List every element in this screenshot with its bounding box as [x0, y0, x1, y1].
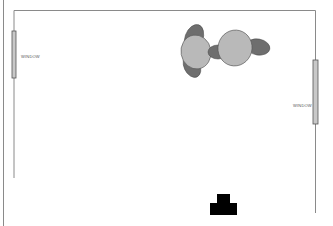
table-with-chairs-right: [208, 26, 271, 70]
top-wall: [14, 11, 316, 214]
black-t-shaped-object: [210, 194, 237, 215]
floor-plan: WINDOW WINDOW: [0, 0, 333, 226]
right-window: [313, 60, 318, 124]
right-window-label: WINDOW: [293, 103, 312, 108]
left-window-label: WINDOW: [21, 54, 40, 59]
left-window: [12, 31, 16, 78]
table-icon: [214, 26, 256, 70]
